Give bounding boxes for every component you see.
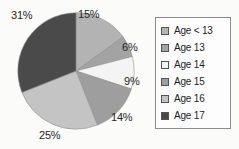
legend-label-age-17: Age 17 <box>174 111 205 121</box>
legend-item-age-13: Age 13 <box>161 39 230 56</box>
legend-label-age-16: Age 16 <box>174 94 205 104</box>
slice-value-label-age-14: 9% <box>124 76 140 87</box>
legend-label-age-13: Age 13 <box>174 43 205 53</box>
legend-item-age-lt-13: Age < 13 <box>161 22 230 39</box>
legend-item-age-16: Age 16 <box>161 90 230 107</box>
legend-swatch-icon-age-15 <box>161 78 169 86</box>
legend-label-age-14: Age 14 <box>174 60 205 70</box>
slice-value-label-age-15: 14% <box>111 112 132 123</box>
legend-swatch-icon-age-16 <box>161 95 169 103</box>
chart-legend: Age < 13 Age 13 Age 14 Age 15 Age 16 Age… <box>155 17 231 129</box>
legend-item-age-15: Age 15 <box>161 73 230 90</box>
legend-label-age-15: Age 15 <box>174 77 205 87</box>
slice-value-label-age-17: 31% <box>11 10 32 21</box>
legend-swatch-icon-age-17 <box>161 112 169 120</box>
slice-value-label-age-13: 6% <box>122 42 138 53</box>
slice-value-label-age-lt-13: 15% <box>78 9 99 20</box>
legend-swatch-icon-age-13 <box>161 44 169 52</box>
pie-plot-area: 15% 6% 9% 14% 25% 31% <box>0 0 152 149</box>
legend-label-age-lt-13: Age < 13 <box>174 26 213 36</box>
slice-value-label-age-16: 25% <box>39 130 60 141</box>
pie-chart-figure: 15% 6% 9% 14% 25% 31% Age < 13 Age 13 Ag… <box>0 0 239 149</box>
legend-swatch-icon-age-14 <box>161 61 169 69</box>
legend-item-age-14: Age 14 <box>161 56 230 73</box>
legend-item-age-17: Age 17 <box>161 107 230 124</box>
legend-swatch-icon-age-lt-13 <box>161 27 169 35</box>
